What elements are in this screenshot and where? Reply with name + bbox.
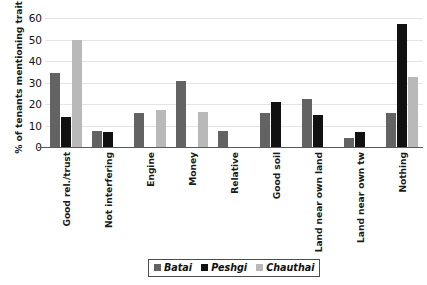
legend-swatch-icon: [256, 264, 263, 271]
y-axis-tick-10: 10: [16, 120, 42, 132]
x-axis-label-cell: Relative: [213, 150, 255, 246]
bar-group: [87, 18, 129, 147]
bar-chauthai: [72, 40, 82, 148]
bar-group: [339, 18, 381, 147]
y-axis-tick-40: 40: [16, 55, 42, 67]
x-axis-label-cell: Money: [171, 150, 213, 246]
bar-chart: % of tenants mentioning trait 0102030405…: [0, 0, 427, 285]
y-axis-tick-30: 30: [16, 77, 42, 89]
x-axis-label: Nothing: [397, 152, 408, 193]
y-axis-tick-50: 50: [16, 34, 42, 46]
bar-peshgi: [397, 24, 407, 147]
bar-batai: [50, 73, 60, 147]
bar-chauthai: [408, 77, 418, 147]
y-axis-tick-labels: 0102030405060: [16, 10, 42, 150]
bar-chauthai: [156, 110, 166, 147]
legend-label: Peshgi: [211, 262, 247, 273]
bar-group: [213, 18, 255, 147]
bar-chauthai: [198, 112, 208, 147]
x-axis-label: Good rel./trust: [61, 152, 72, 227]
bar-peshgi: [103, 132, 113, 147]
bar-peshgi: [271, 102, 281, 147]
legend-label: Chauthai: [266, 262, 314, 273]
y-axis-tick-60: 60: [16, 12, 42, 24]
bar-groups: [45, 18, 423, 147]
x-axis-label-cell: Land near own land: [297, 150, 339, 246]
legend-item-chauthai[interactable]: Chauthai: [256, 262, 314, 273]
y-axis-tick-20: 20: [16, 98, 42, 110]
bar-batai: [92, 131, 102, 147]
bar-group: [381, 18, 423, 147]
x-axis-label: Engine: [145, 152, 156, 187]
bar-batai: [386, 113, 396, 147]
bar-peshgi: [313, 115, 323, 147]
legend-item-batai[interactable]: Batai: [154, 262, 192, 273]
bar-batai: [176, 81, 186, 147]
x-axis-label: Money: [187, 152, 198, 186]
x-axis-label-cell: Nothing: [381, 150, 423, 246]
x-axis-category-labels: Good rel./trustNot interferingEngineMone…: [45, 150, 423, 246]
bar-peshgi: [61, 117, 71, 147]
bar-peshgi: [355, 132, 365, 147]
bar-group: [45, 18, 87, 147]
x-axis-label: Relative: [229, 152, 240, 194]
bar-batai: [134, 113, 144, 147]
legend-swatch-icon: [201, 264, 208, 271]
x-axis-label-cell: Good rel./trust: [45, 150, 87, 246]
legend: BataiPeshgiChauthai: [148, 259, 320, 277]
plot-area: [45, 18, 423, 147]
x-axis-label-cell: Engine: [129, 150, 171, 246]
bar-group: [255, 18, 297, 147]
x-axis-label: Not interfering: [103, 152, 114, 228]
bar-batai: [344, 138, 354, 147]
legend-item-peshgi[interactable]: Peshgi: [201, 262, 247, 273]
legend-swatch-icon: [154, 264, 161, 271]
x-axis-label-cell: Land near own tw: [339, 150, 381, 246]
bar-group: [171, 18, 213, 147]
x-axis-line: [38, 147, 423, 148]
bar-group: [297, 18, 339, 147]
x-axis-label-cell: Good soil: [255, 150, 297, 246]
bar-batai: [218, 131, 228, 147]
bar-batai: [302, 99, 312, 147]
bar-group: [129, 18, 171, 147]
bar-batai: [260, 113, 270, 147]
x-axis-label: Good soil: [271, 152, 282, 199]
legend-label: Batai: [164, 262, 192, 273]
x-axis-label: Land near own tw: [355, 152, 366, 243]
x-axis-label-cell: Not interfering: [87, 150, 129, 246]
x-axis-label: Land near own land: [313, 152, 324, 252]
